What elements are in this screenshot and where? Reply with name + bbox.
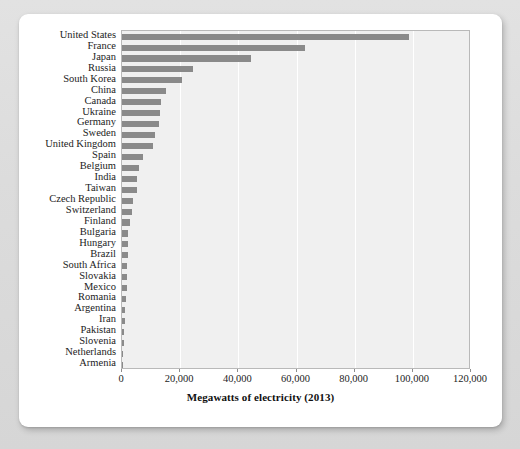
x-tick-mark	[470, 369, 471, 372]
bar-row[interactable]	[122, 31, 469, 42]
bar-row[interactable]	[122, 293, 469, 304]
x-tick-label: 20,000	[165, 373, 194, 384]
bar-row[interactable]	[122, 250, 469, 261]
bar[interactable]	[122, 165, 139, 171]
bar-row[interactable]	[122, 217, 469, 228]
bar-row[interactable]	[122, 206, 469, 217]
bar[interactable]	[122, 99, 161, 105]
bar-row[interactable]	[122, 140, 469, 151]
bar[interactable]	[122, 55, 251, 61]
bar-row[interactable]	[122, 86, 469, 97]
bar-row[interactable]	[122, 97, 469, 108]
bar-row[interactable]	[122, 348, 469, 359]
x-tick-mark	[412, 369, 413, 372]
category-label: Slovakia	[79, 271, 116, 282]
x-tick-mark	[354, 369, 355, 372]
bar-row[interactable]	[122, 359, 469, 369]
chart-card: United StatesFranceJapanRussiaSouth Kore…	[19, 14, 502, 427]
x-tick-label: 80,000	[339, 373, 368, 384]
bar-row[interactable]	[122, 64, 469, 75]
bar-row[interactable]	[122, 129, 469, 140]
x-axis-title: Megawatts of electricity (2013)	[19, 391, 502, 403]
x-tick-label: 120,000	[453, 373, 487, 384]
bar-row[interactable]	[122, 239, 469, 250]
bar-row[interactable]	[122, 228, 469, 239]
bar-row[interactable]	[122, 326, 469, 337]
bar[interactable]	[122, 241, 128, 247]
category-label: Armenia	[79, 358, 116, 369]
bar[interactable]	[122, 274, 127, 280]
bar-row[interactable]	[122, 108, 469, 119]
bar[interactable]	[122, 132, 155, 138]
bar-row[interactable]	[122, 118, 469, 129]
bar[interactable]	[122, 351, 123, 357]
bar[interactable]	[122, 329, 124, 335]
category-label: China	[91, 85, 116, 96]
bar[interactable]	[122, 187, 137, 193]
bar[interactable]	[122, 121, 159, 127]
bar-row[interactable]	[122, 53, 469, 64]
bar-row[interactable]	[122, 337, 469, 348]
bar-row[interactable]	[122, 261, 469, 272]
category-label: South Africa	[63, 260, 116, 271]
bar[interactable]	[122, 88, 166, 94]
x-tick-label: 40,000	[223, 373, 252, 384]
x-tick-mark	[121, 369, 122, 372]
bar[interactable]	[122, 209, 132, 215]
category-axis-labels: United StatesFranceJapanRussiaSouth Kore…	[19, 30, 119, 369]
bar[interactable]	[122, 34, 409, 40]
plot-area	[121, 30, 470, 369]
bar-row[interactable]	[122, 283, 469, 294]
bar-row[interactable]	[122, 272, 469, 283]
bar-row[interactable]	[122, 304, 469, 315]
x-tick-mark	[179, 369, 180, 372]
bar-row[interactable]	[122, 151, 469, 162]
bar[interactable]	[122, 154, 143, 160]
bar-row[interactable]	[122, 42, 469, 53]
bar[interactable]	[122, 285, 127, 291]
bar-row[interactable]	[122, 75, 469, 86]
category-label: Canada	[85, 96, 117, 107]
x-tick-mark	[237, 369, 238, 372]
bar[interactable]	[122, 143, 153, 149]
bar[interactable]	[122, 362, 123, 368]
bar[interactable]	[122, 66, 193, 72]
x-tick-mark	[296, 369, 297, 372]
x-axis-ticks: 020,00040,00060,00080,000100,000120,000	[121, 371, 470, 387]
x-tick-label: 100,000	[395, 373, 429, 384]
bar[interactable]	[122, 219, 130, 225]
bar[interactable]	[122, 45, 305, 51]
bar[interactable]	[122, 296, 126, 302]
bar-row[interactable]	[122, 184, 469, 195]
bar[interactable]	[122, 318, 125, 324]
bar-chart-figure: United StatesFranceJapanRussiaSouth Kore…	[19, 14, 502, 427]
bar[interactable]	[122, 263, 127, 269]
bar[interactable]	[122, 198, 133, 204]
bar[interactable]	[122, 307, 125, 313]
x-tick-label: 0	[118, 373, 123, 384]
x-tick-label: 60,000	[281, 373, 310, 384]
bar-row[interactable]	[122, 162, 469, 173]
bars-layer	[122, 31, 469, 368]
plot-wrapper	[121, 30, 470, 369]
bar[interactable]	[122, 176, 137, 182]
bar[interactable]	[122, 252, 128, 258]
bar-row[interactable]	[122, 173, 469, 184]
bar[interactable]	[122, 110, 160, 116]
bar[interactable]	[122, 230, 128, 236]
bar-row[interactable]	[122, 315, 469, 326]
category-label: Brazil	[90, 249, 116, 260]
bar[interactable]	[122, 340, 124, 346]
bar[interactable]	[122, 77, 182, 83]
bar-row[interactable]	[122, 195, 469, 206]
